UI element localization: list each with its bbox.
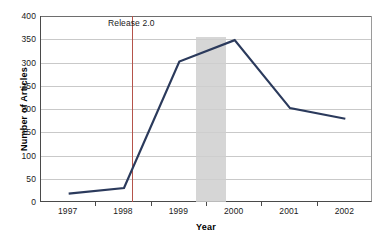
y-axis-tick-label: 400 — [6, 11, 36, 21]
x-axis-tick-label: 1997 — [58, 206, 77, 216]
x-axis-title: Year — [40, 222, 372, 232]
x-axis-tick-label: 1999 — [169, 206, 188, 216]
x-axis-tick-mark — [151, 202, 152, 206]
series-line — [41, 16, 373, 202]
y-axis-tick-label: 300 — [6, 58, 36, 68]
y-axis-tick-label: 200 — [6, 104, 36, 114]
plot-area — [40, 16, 372, 202]
y-axis-tick-label: 250 — [6, 81, 36, 91]
y-axis-tick-label: 100 — [6, 151, 36, 161]
x-axis-tick-mark — [317, 202, 318, 206]
line-chart: Number of Articles 050100150200250300350… — [0, 0, 387, 240]
x-axis-tick-mark — [261, 202, 262, 206]
y-axis-tick-label: 350 — [6, 34, 36, 44]
x-axis-tick-label: 1998 — [113, 206, 132, 216]
y-axis-tick-labels: 050100150200250300350400 — [0, 16, 36, 202]
x-axis-tick-mark — [95, 202, 96, 206]
x-axis-tick-mark — [206, 202, 207, 206]
release-annotation-label: Release 2.0 — [108, 18, 154, 28]
x-axis-tick-label: 2002 — [335, 206, 354, 216]
y-axis-tick-label: 50 — [6, 174, 36, 184]
y-axis-tick-label: 0 — [6, 197, 36, 207]
x-axis-tick-label: 2001 — [279, 206, 298, 216]
y-axis-tick-label: 150 — [6, 127, 36, 137]
x-axis-tick-label: 2000 — [224, 206, 243, 216]
